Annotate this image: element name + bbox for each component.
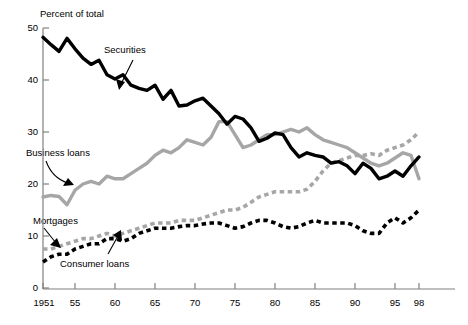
x-axis-ticks: [43, 283, 419, 289]
chart-plot-area: [0, 0, 468, 325]
series-paths-group: [43, 37, 419, 262]
annotation-arrows-group: [44, 60, 133, 254]
securities-arrow-head: [116, 79, 125, 90]
business-loans-arrow-line: [46, 161, 68, 183]
chart-container: Percent of total 50 40 30 20 10 0 1951 5…: [0, 0, 468, 325]
mortgages-arrow-head: [50, 238, 61, 248]
